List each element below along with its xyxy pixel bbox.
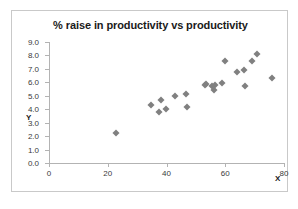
y-tick: 9.0 <box>45 42 49 43</box>
x-tick-label: 60 <box>221 169 230 178</box>
data-point <box>219 79 226 86</box>
x-tick <box>167 163 168 167</box>
data-point <box>155 108 162 115</box>
data-point <box>171 92 178 99</box>
y-tick: 8.0 <box>45 55 49 56</box>
y-tick: 2.0 <box>45 136 49 137</box>
x-tick-label: 0 <box>47 169 51 178</box>
data-point <box>182 90 189 97</box>
y-tick-label: 4.0 <box>28 105 39 114</box>
chart-title: % raise in productivity vs productivity <box>12 19 289 31</box>
x-tick <box>49 163 50 167</box>
y-tick: 7.0 <box>45 69 49 70</box>
data-point <box>241 83 248 90</box>
x-tick <box>108 163 109 167</box>
x-tick-label: 80 <box>280 169 289 178</box>
y-tick-label: 0.0 <box>28 159 39 168</box>
plot-area: 0.01.02.03.04.05.06.07.08.09.0 020406080 <box>49 42 284 163</box>
x-tick <box>225 163 226 167</box>
y-tick-label: 9.0 <box>28 38 39 47</box>
data-point <box>248 58 255 65</box>
x-tick <box>284 163 285 167</box>
data-point <box>268 74 275 81</box>
x-tick-label: 40 <box>162 169 171 178</box>
chart-container: % raise in productivity vs productivity … <box>11 10 288 192</box>
y-tick-label: 3.0 <box>28 118 39 127</box>
data-point <box>253 51 260 58</box>
y-tick-label: 2.0 <box>28 132 39 141</box>
y-tick-label: 7.0 <box>28 64 39 73</box>
y-tick: 6.0 <box>45 82 49 83</box>
x-tick-label: 20 <box>103 169 112 178</box>
data-point <box>183 103 190 110</box>
y-tick: 4.0 <box>45 109 49 110</box>
y-axis-line <box>49 42 50 163</box>
data-point <box>240 67 247 74</box>
y-tick: 5.0 <box>45 96 49 97</box>
data-point <box>221 58 228 65</box>
y-tick-label: 1.0 <box>28 145 39 154</box>
y-tick-label: 8.0 <box>28 51 39 60</box>
y-tick: 3.0 <box>45 123 49 124</box>
data-point <box>157 96 164 103</box>
data-point <box>147 102 154 109</box>
y-tick: 1.0 <box>45 150 49 151</box>
data-point <box>112 130 119 137</box>
y-tick-label: 6.0 <box>28 78 39 87</box>
y-tick-label: 5.0 <box>28 91 39 100</box>
data-point <box>162 106 169 113</box>
